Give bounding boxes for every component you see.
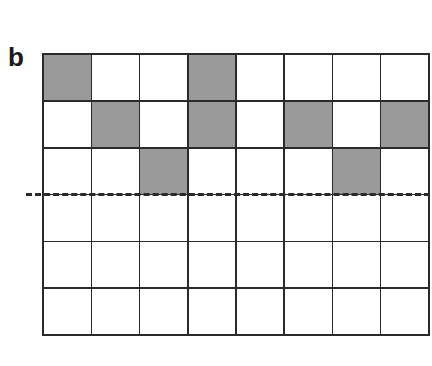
grid-cell-filled xyxy=(285,102,332,147)
grid-cell-filled xyxy=(44,55,91,100)
grid-cell xyxy=(285,55,332,100)
grid-cell xyxy=(140,55,187,100)
grid-cell-filled xyxy=(189,102,236,147)
grid-cell xyxy=(92,195,139,240)
grid-cell xyxy=(381,242,428,287)
grid-cell xyxy=(44,195,91,240)
grid-cell-filled xyxy=(333,149,380,194)
grid-cell xyxy=(44,149,91,194)
grid-cell xyxy=(333,289,380,334)
grid-cell xyxy=(189,195,236,240)
grid-cell xyxy=(92,149,139,194)
grid-cell xyxy=(381,195,428,240)
grid-cell xyxy=(237,242,284,287)
grid-cell xyxy=(44,289,91,334)
grid-cell xyxy=(285,242,332,287)
grid-cell-filled xyxy=(189,55,236,100)
grid-cell xyxy=(140,102,187,147)
grid-cell xyxy=(333,55,380,100)
grid-cell xyxy=(237,102,284,147)
grid-cell xyxy=(285,149,332,194)
grid-cell xyxy=(381,55,428,100)
grid-cell xyxy=(189,289,236,334)
grid-cell xyxy=(381,289,428,334)
grid-cell xyxy=(285,195,332,240)
grid-cell xyxy=(44,102,91,147)
grid-cell xyxy=(140,289,187,334)
grid-cell xyxy=(333,102,380,147)
grid-cell xyxy=(333,195,380,240)
grid-cell-filled xyxy=(92,102,139,147)
grid-cell xyxy=(237,149,284,194)
grid-cell xyxy=(92,55,139,100)
grid-cell xyxy=(237,195,284,240)
grid-cell xyxy=(92,289,139,334)
grid-cell xyxy=(237,289,284,334)
grid-cell xyxy=(140,195,187,240)
grid-cell xyxy=(189,242,236,287)
grid-cell xyxy=(140,242,187,287)
grid-cell xyxy=(189,149,236,194)
grid-cell xyxy=(92,242,139,287)
grid-cell xyxy=(333,242,380,287)
grid-cell xyxy=(237,55,284,100)
grid-cell-filled xyxy=(140,149,187,194)
grid-cell xyxy=(44,242,91,287)
grid-cell xyxy=(381,149,428,194)
grid-cell xyxy=(285,289,332,334)
panel-label: b xyxy=(8,44,24,70)
grid-cell-filled xyxy=(381,102,428,147)
dashed-threshold-line xyxy=(26,193,430,196)
